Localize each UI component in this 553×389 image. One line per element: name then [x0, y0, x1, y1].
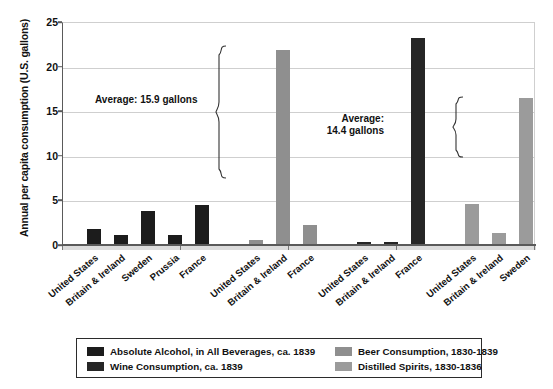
y-tick-label-0: 0 [18, 239, 58, 251]
legend-item-beer: Beer Consumption, 1830-1839 [335, 346, 498, 357]
average-brace-beer-icon [215, 45, 229, 179]
x-tick-mark-3 [396, 246, 397, 250]
legend-swatch-distilled-spirits [335, 362, 352, 371]
bar-g2-britain-ireland [276, 50, 290, 245]
x-axis-baseline-shadow [62, 246, 536, 250]
bar-g1-sweden [141, 211, 155, 245]
x-tick-mark-1 [180, 246, 181, 250]
gridline-5 [63, 201, 534, 202]
annotation-spirits-average: Average: 14.4 gallons [298, 113, 384, 137]
annotation-spirits-average-line2: 14.4 gallons [327, 125, 384, 136]
alcohol-consumption-bar-chart: Annual per capita consumption (U.S. gall… [0, 0, 553, 389]
legend-swatch-wine [87, 362, 104, 371]
annotation-beer-average: Average: 15.9 gallons [95, 94, 197, 106]
bar-g3-france [411, 38, 425, 245]
legend-label-absolute-alcohol: Absolute Alcohol, in All Beverages, ca. … [110, 346, 315, 357]
x-tick-mark-0 [62, 246, 63, 250]
legend-label-distilled-spirits: Distilled Spirits, 1830-1836 [358, 361, 482, 372]
annotation-spirits-average-line1: Average: [342, 113, 384, 124]
legend-item-absolute-alcohol: Absolute Alcohol, in All Beverages, ca. … [87, 346, 315, 357]
legend-swatch-beer [335, 347, 352, 356]
bar-g1-united-states [87, 229, 101, 245]
gridline-20 [63, 68, 534, 69]
y-tick-label-10: 10 [18, 150, 58, 162]
legend-item-wine: Wine Consumption, ca. 1839 [87, 361, 243, 372]
y-tick-label-5: 5 [18, 194, 58, 206]
y-tick-label-20: 20 [18, 61, 58, 73]
legend-item-distilled-spirits: Distilled Spirits, 1830-1836 [335, 361, 482, 372]
bar-g4-sweden [519, 98, 533, 245]
legend-swatch-absolute-alcohol [87, 347, 104, 356]
bar-g1-france [195, 205, 209, 245]
bar-g2-france [303, 225, 317, 246]
legend-label-beer: Beer Consumption, 1830-1839 [358, 346, 498, 357]
x-tick-mark-4 [534, 246, 535, 250]
chart-legend: Absolute Alcohol, in All Beverages, ca. … [76, 338, 482, 378]
y-tick-label-15: 15 [18, 105, 58, 117]
x-tick-mark-2 [288, 246, 289, 250]
legend-label-wine: Wine Consumption, ca. 1839 [110, 361, 243, 372]
average-brace-spirits-icon [452, 96, 466, 158]
bar-g4-united-states [465, 204, 479, 245]
y-tick-label-25: 25 [18, 16, 58, 28]
